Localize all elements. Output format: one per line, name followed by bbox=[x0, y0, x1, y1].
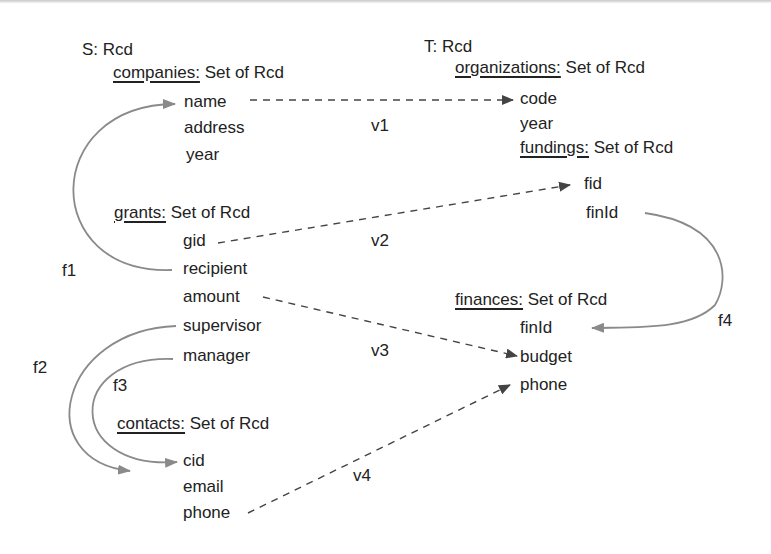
target-root: T: Rcd bbox=[424, 37, 472, 57]
field-finances-finId: finId bbox=[520, 318, 552, 338]
field-contacts-email: email bbox=[183, 477, 224, 497]
f3-arrow bbox=[92, 359, 177, 463]
finances-name: finances: bbox=[455, 290, 523, 309]
v2-arrow bbox=[218, 185, 570, 243]
field-finances-phone: phone bbox=[520, 375, 567, 395]
grants-name: grants: bbox=[114, 203, 166, 222]
companies-name: companies: bbox=[113, 63, 200, 82]
field-organizations-year: year bbox=[520, 114, 553, 134]
field-grants-amount: amount bbox=[183, 287, 240, 307]
contacts-header: contacts: Set of Rcd bbox=[117, 414, 269, 434]
companies-header: companies: Set of Rcd bbox=[113, 63, 284, 83]
fundings-header: fundings: Set of Rcd bbox=[520, 138, 673, 158]
contacts-name: contacts: bbox=[117, 414, 185, 433]
field-fundings-fid: fid bbox=[584, 174, 602, 194]
fundings-type: Set of Rcd bbox=[589, 138, 673, 157]
v4-arrow bbox=[248, 385, 510, 513]
grants-type: Set of Rcd bbox=[166, 203, 250, 222]
source-root: S: Rcd bbox=[82, 40, 133, 60]
organizations-type: Set of Rcd bbox=[561, 58, 645, 77]
companies-type: Set of Rcd bbox=[200, 63, 284, 82]
label-f3: f3 bbox=[113, 376, 127, 396]
field-grants-gid: gid bbox=[183, 231, 206, 251]
label-v2: v2 bbox=[371, 231, 389, 251]
label-v3: v3 bbox=[371, 341, 389, 361]
grants-header: grants: Set of Rcd bbox=[114, 203, 250, 223]
field-companies-name: name bbox=[184, 92, 227, 112]
field-organizations-code: code bbox=[520, 89, 557, 109]
label-f2: f2 bbox=[33, 358, 47, 378]
label-f1: f1 bbox=[62, 261, 76, 281]
finances-type: Set of Rcd bbox=[523, 290, 607, 309]
field-fundings-finId: finId bbox=[586, 203, 618, 223]
field-companies-address: address bbox=[184, 118, 244, 138]
field-contacts-phone: phone bbox=[183, 503, 230, 523]
f4-arrow bbox=[592, 213, 723, 328]
mapping-arrows bbox=[0, 0, 771, 554]
organizations-header: organizations: Set of Rcd bbox=[455, 58, 645, 78]
contacts-type: Set of Rcd bbox=[185, 414, 269, 433]
field-grants-supervisor: supervisor bbox=[183, 316, 261, 336]
field-companies-year: year bbox=[186, 145, 219, 165]
field-contacts-cid: cid bbox=[183, 451, 205, 471]
f1-arrow bbox=[73, 104, 175, 270]
label-v4: v4 bbox=[353, 466, 371, 486]
label-v1: v1 bbox=[371, 116, 389, 136]
finances-header: finances: Set of Rcd bbox=[455, 290, 607, 310]
fundings-name: fundings: bbox=[520, 138, 589, 157]
field-finances-budget: budget bbox=[520, 347, 572, 367]
label-f4: f4 bbox=[718, 311, 732, 331]
field-grants-recipient: recipient bbox=[183, 259, 247, 279]
f2-arrow bbox=[70, 326, 176, 471]
organizations-name: organizations: bbox=[455, 58, 561, 77]
field-grants-manager: manager bbox=[183, 346, 250, 366]
